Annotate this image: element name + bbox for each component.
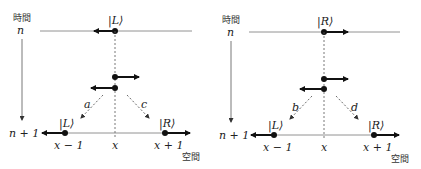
split-dot-right <box>321 76 327 82</box>
split-dot-left <box>112 85 118 91</box>
x-center-label: x <box>321 141 328 154</box>
x-center-label: x <box>112 139 119 152</box>
time-n1-label: n + 1 <box>219 129 249 142</box>
time-n1-label: n + 1 <box>9 127 39 140</box>
split-dot-left <box>321 86 327 92</box>
top-state-label: |R⟩ <box>317 15 333 29</box>
walker-dot-right <box>371 132 377 138</box>
space-axis-label: 空間 <box>182 151 200 162</box>
time-axis-label: 時間 <box>13 13 31 23</box>
time-axis-label: 時間 <box>222 15 240 25</box>
coef-left-label: b <box>292 101 299 114</box>
panel-right: 時間 n n + 1 |R⟩ b d |L⟩ |R⟩ x − 1 x x + 1… <box>219 15 409 164</box>
x-plus-label: x + 1 <box>363 141 392 154</box>
bottom-right-state-label: |R⟩ <box>159 117 175 131</box>
x-minus-label: x − 1 <box>263 141 292 154</box>
split-dot-right <box>112 74 118 80</box>
panel-left: 時間 n n + 1 |L⟩ a c |L⟩ |R⟩ x − 1 x x + 1… <box>9 13 200 162</box>
x-plus-label: x + 1 <box>154 139 183 152</box>
walker-dot-right <box>162 130 168 136</box>
bottom-right-state-label: |R⟩ <box>368 119 384 133</box>
time-n-label: n <box>17 24 24 37</box>
walker-dot-left <box>62 130 68 136</box>
x-minus-label: x − 1 <box>54 139 83 152</box>
top-state-label: |L⟩ <box>108 14 123 28</box>
space-axis-label: 空間 <box>391 153 409 164</box>
time-n-label: n <box>227 26 234 39</box>
bottom-left-state-label: |L⟩ <box>268 119 283 133</box>
coef-right-label: d <box>351 101 358 114</box>
bottom-left-state-label: |L⟩ <box>59 117 74 131</box>
coef-left-label: a <box>84 98 91 111</box>
coef-right-label: c <box>141 98 147 111</box>
walker-dot-left <box>271 132 277 138</box>
